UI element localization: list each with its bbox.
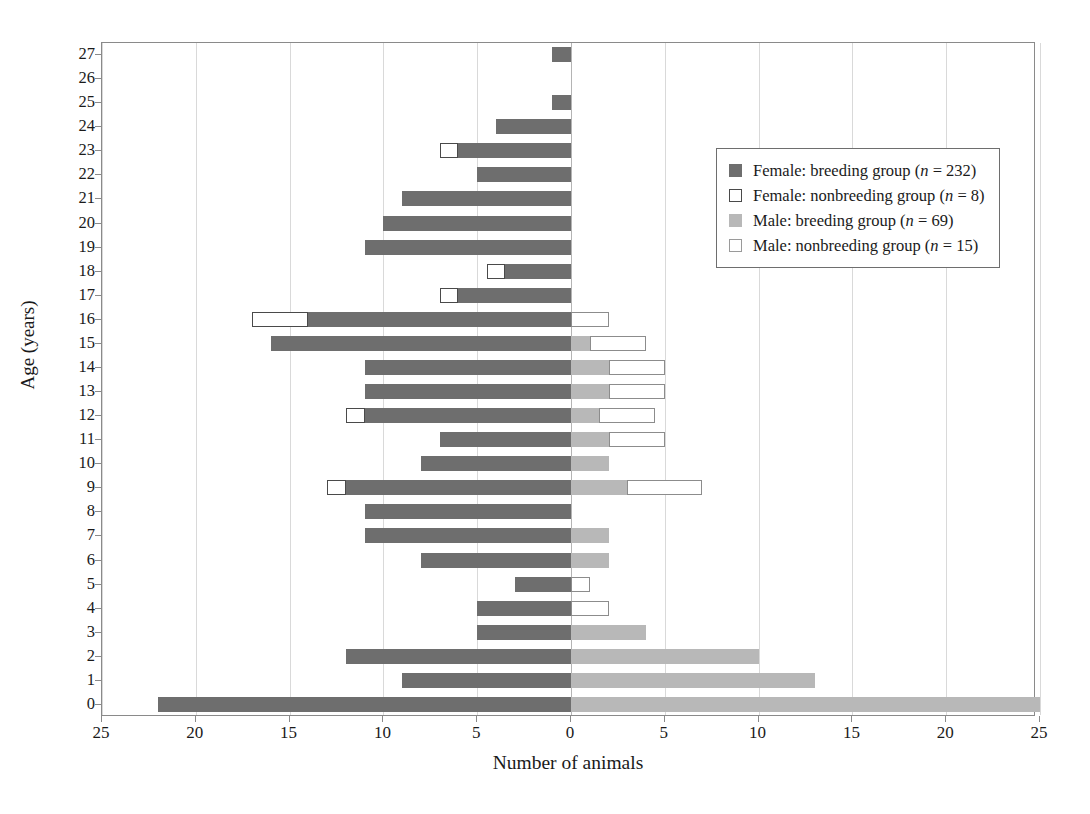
bar-row bbox=[102, 597, 1034, 621]
x-axis-tick-label: 10 bbox=[352, 724, 412, 741]
bar-female-nonbreeding bbox=[346, 408, 365, 423]
bar-male-nonbreeding bbox=[627, 480, 702, 495]
y-axis-tick-label: 14 bbox=[59, 359, 95, 376]
y-axis-tick-label: 16 bbox=[59, 311, 95, 328]
plot-area bbox=[101, 42, 1035, 716]
x-axis-tick-mark bbox=[1039, 716, 1040, 722]
y-axis-tick-label: 3 bbox=[59, 624, 95, 641]
bar-male-breeding bbox=[571, 432, 609, 447]
legend-swatch-male-nonbreeding bbox=[729, 239, 742, 252]
bar-female-breeding bbox=[308, 312, 571, 327]
bar-male-nonbreeding bbox=[599, 408, 655, 423]
bar-male-breeding bbox=[571, 673, 815, 688]
bar-female-breeding bbox=[552, 47, 571, 62]
bar-female-breeding bbox=[515, 577, 571, 592]
x-axis-tick-label: 5 bbox=[634, 724, 694, 741]
x-axis-tick-label: 25 bbox=[71, 724, 131, 741]
y-axis-tick-label: 15 bbox=[59, 335, 95, 352]
legend-item: Female: breeding group (n = 232) bbox=[729, 158, 985, 183]
bar-female-breeding bbox=[271, 336, 571, 351]
bar-male-breeding bbox=[571, 697, 1040, 712]
bar-female-breeding bbox=[496, 119, 571, 134]
bar-male-nonbreeding bbox=[571, 601, 609, 616]
bar-female-breeding bbox=[346, 480, 571, 495]
bar-male-nonbreeding bbox=[571, 577, 590, 592]
bar-row bbox=[102, 115, 1034, 139]
bar-row bbox=[102, 645, 1034, 669]
bar-male-breeding bbox=[571, 649, 759, 664]
bar-row bbox=[102, 693, 1034, 717]
y-axis-title: Age (years) bbox=[17, 245, 39, 445]
bar-row bbox=[102, 621, 1034, 645]
bar-female-breeding bbox=[477, 625, 571, 640]
legend-swatch-female-breeding bbox=[729, 164, 742, 177]
y-axis-tick-label: 20 bbox=[59, 214, 95, 231]
x-axis-tick-mark bbox=[570, 716, 571, 722]
bar-female-breeding bbox=[402, 673, 571, 688]
y-axis-tick-label: 23 bbox=[59, 142, 95, 159]
legend-item-label: Male: breeding group (n = 69) bbox=[753, 211, 953, 231]
y-axis-tick-label: 8 bbox=[59, 503, 95, 520]
x-axis-tick-label: 0 bbox=[540, 724, 600, 741]
bar-female-breeding bbox=[402, 191, 571, 206]
bar-female-breeding bbox=[365, 384, 571, 399]
bar-row bbox=[102, 452, 1034, 476]
bar-female-breeding bbox=[421, 553, 571, 568]
y-axis-tick-label: 26 bbox=[59, 70, 95, 87]
x-axis-tick-label: 15 bbox=[821, 724, 881, 741]
bar-male-breeding bbox=[571, 360, 609, 375]
chart-legend: Female: breeding group (n = 232)Female: … bbox=[716, 148, 1000, 268]
bar-row bbox=[102, 669, 1034, 693]
bar-row bbox=[102, 91, 1034, 115]
bar-male-breeding bbox=[571, 528, 609, 543]
x-axis-tick-mark bbox=[476, 716, 477, 722]
bar-female-breeding bbox=[440, 432, 571, 447]
x-axis-tick-mark bbox=[289, 716, 290, 722]
x-axis-tick-mark bbox=[195, 716, 196, 722]
bar-male-nonbreeding bbox=[590, 336, 646, 351]
y-axis-tick-label: 22 bbox=[59, 166, 95, 183]
x-axis-tick-mark bbox=[945, 716, 946, 722]
bar-row bbox=[102, 404, 1034, 428]
x-axis-tick-label: 20 bbox=[165, 724, 225, 741]
bar-female-breeding bbox=[458, 288, 571, 303]
bar-male-nonbreeding bbox=[571, 312, 609, 327]
y-axis-tick-label: 7 bbox=[59, 527, 95, 544]
bar-row bbox=[102, 332, 1034, 356]
gridline-vertical bbox=[1040, 43, 1041, 715]
bar-row bbox=[102, 284, 1034, 308]
y-axis-tick-label: 5 bbox=[59, 575, 95, 592]
x-axis-tick-label: 25 bbox=[1009, 724, 1069, 741]
x-axis-tick-label: 5 bbox=[446, 724, 506, 741]
x-axis-tick-label: 20 bbox=[915, 724, 975, 741]
x-axis-tick-mark bbox=[851, 716, 852, 722]
x-axis-tick-label: 15 bbox=[259, 724, 319, 741]
legend-item: Male: breeding group (n = 69) bbox=[729, 208, 985, 233]
bar-female-breeding bbox=[365, 408, 571, 423]
bar-row bbox=[102, 524, 1034, 548]
bar-row bbox=[102, 67, 1034, 91]
bar-female-nonbreeding bbox=[440, 143, 459, 158]
y-axis-tick-group: 2726252423222120191817161514131211109876… bbox=[50, 42, 95, 716]
bar-female-nonbreeding bbox=[440, 288, 459, 303]
bar-row bbox=[102, 356, 1034, 380]
legend-swatch-male-breeding bbox=[729, 214, 742, 227]
bar-row bbox=[102, 43, 1034, 67]
bar-male-breeding bbox=[571, 553, 609, 568]
legend-item: Female: nonbreeding group (n = 8) bbox=[729, 183, 985, 208]
y-axis-tick-label: 19 bbox=[59, 238, 95, 255]
bar-row bbox=[102, 573, 1034, 597]
bar-female-breeding bbox=[477, 167, 571, 182]
bar-female-nonbreeding bbox=[252, 312, 308, 327]
bar-female-breeding bbox=[158, 697, 571, 712]
legend-item-label: Female: breeding group (n = 232) bbox=[753, 161, 976, 181]
bar-female-breeding bbox=[421, 456, 571, 471]
bar-male-breeding bbox=[571, 336, 590, 351]
bar-female-breeding bbox=[365, 528, 571, 543]
x-axis-tick-label: 10 bbox=[728, 724, 788, 741]
y-axis-tick-label: 25 bbox=[59, 94, 95, 111]
bar-male-breeding bbox=[571, 456, 609, 471]
y-axis-tick-label: 27 bbox=[59, 46, 95, 63]
bar-row bbox=[102, 308, 1034, 332]
bar-female-breeding bbox=[552, 95, 571, 110]
